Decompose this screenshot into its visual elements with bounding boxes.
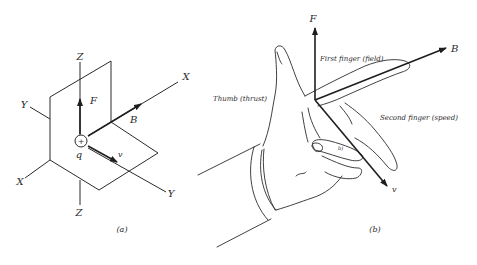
charge-symbol: + xyxy=(78,137,85,146)
thumb-label: Thumb (thrust) xyxy=(213,95,267,103)
y-axis-label-left: Y xyxy=(21,99,29,110)
figure-b: F B v First finger (field) Second finger… xyxy=(198,13,458,247)
x-axis-label-right: X xyxy=(181,71,190,82)
caption-b: (b) xyxy=(369,225,380,234)
figure-a: + q Z Z Y Y X X F B v (a) xyxy=(15,51,190,234)
force-label-b: F xyxy=(309,13,318,24)
charge-label: q xyxy=(76,149,82,160)
first-finger-label: First finger (field) xyxy=(319,55,384,63)
velocity-label-a: v xyxy=(118,150,123,159)
z-axis-label-bottom: Z xyxy=(75,207,84,218)
horizontal-plane xyxy=(50,122,158,190)
y-axis-right xyxy=(88,148,166,192)
caption-a: (a) xyxy=(116,225,127,234)
field-label-b: B xyxy=(450,43,458,54)
sleeve xyxy=(198,144,276,247)
velocity-vector-b xyxy=(315,100,387,186)
force-label-a: F xyxy=(89,95,98,106)
z-axis-label-top: Z xyxy=(76,51,85,62)
field-label-a: B xyxy=(129,114,137,125)
y-axis-left xyxy=(30,107,50,119)
y-axis-label-right: Y xyxy=(168,188,176,199)
figure-canvas: + q Z Z Y Y X X F B v (a) xyxy=(0,0,477,265)
x-axis-label-left: X xyxy=(15,176,24,187)
x-axis-left xyxy=(25,160,50,178)
velocity-label-b: v xyxy=(392,185,397,194)
velocity-vector-a xyxy=(88,146,117,162)
second-finger-label: Second finger (speed) xyxy=(380,114,458,122)
small-mark: b) xyxy=(338,145,343,151)
